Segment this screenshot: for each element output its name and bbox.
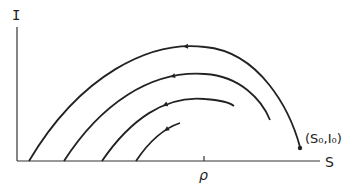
- trajectory-2: [64, 74, 270, 161]
- initial-point: [298, 146, 302, 150]
- y-axis-label: I: [12, 8, 20, 22]
- phase-diagram: [0, 0, 354, 189]
- trajectory-1: [29, 46, 300, 161]
- arrowhead-icon: [183, 44, 188, 49]
- trajectory-4: [136, 123, 180, 161]
- x-tick-label: ρ: [199, 168, 208, 182]
- initial-point-label: (S₀,I₀): [305, 132, 342, 145]
- x-axis-label: S: [325, 155, 334, 169]
